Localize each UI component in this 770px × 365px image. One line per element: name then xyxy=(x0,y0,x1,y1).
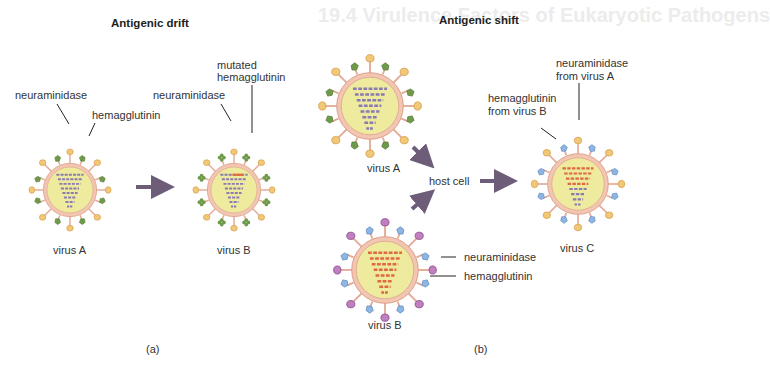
host-cell-label: host cell xyxy=(429,175,469,187)
shift-virus-a xyxy=(319,55,422,158)
panel-b-title: Antigenic shift xyxy=(439,14,519,26)
drift-virus-a-label: virus A xyxy=(53,244,86,256)
drift-virus-b-label: virus B xyxy=(217,244,251,256)
shift-c-ha-label-1: hemagglutinin xyxy=(488,92,557,104)
arrow-virus-b-to-host xyxy=(412,197,426,209)
drift-b-mutated-label-2: hemagglutinin xyxy=(217,71,286,83)
shift-virus-a-label: virus A xyxy=(367,162,400,174)
shift-c-ha-label-2: from virus B xyxy=(488,105,547,117)
drift-virus-a xyxy=(29,149,111,231)
shift-virus-c-label: virus C xyxy=(560,242,594,254)
shift-b-neuraminidase-label: neuraminidase xyxy=(464,251,536,263)
drift-a-hemagglutinin-label: hemagglutinin xyxy=(92,109,161,121)
drift-b-neuraminidase-label: neuraminidase xyxy=(153,89,225,101)
shift-virus-b xyxy=(334,219,437,322)
drift-virus-b xyxy=(193,149,275,231)
shift-virus-c xyxy=(531,137,624,230)
arrow-virus-a-to-host xyxy=(413,147,426,160)
shift-b-hemagglutinin-label: hemagglutinin xyxy=(464,270,533,282)
drift-b-mutated-label-1: mutated xyxy=(217,59,257,71)
panel-a-title: Antigenic drift xyxy=(111,17,189,29)
shift-virus-b-label: virus B xyxy=(368,319,402,331)
shift-c-na-label-1: neuraminidase xyxy=(556,57,628,69)
panel-b-caption: (b) xyxy=(474,343,487,355)
panel-a-caption: (a) xyxy=(146,343,159,355)
shift-c-na-label-2: from virus A xyxy=(556,70,614,82)
drift-a-neuraminidase-label: neuraminidase xyxy=(15,89,87,101)
